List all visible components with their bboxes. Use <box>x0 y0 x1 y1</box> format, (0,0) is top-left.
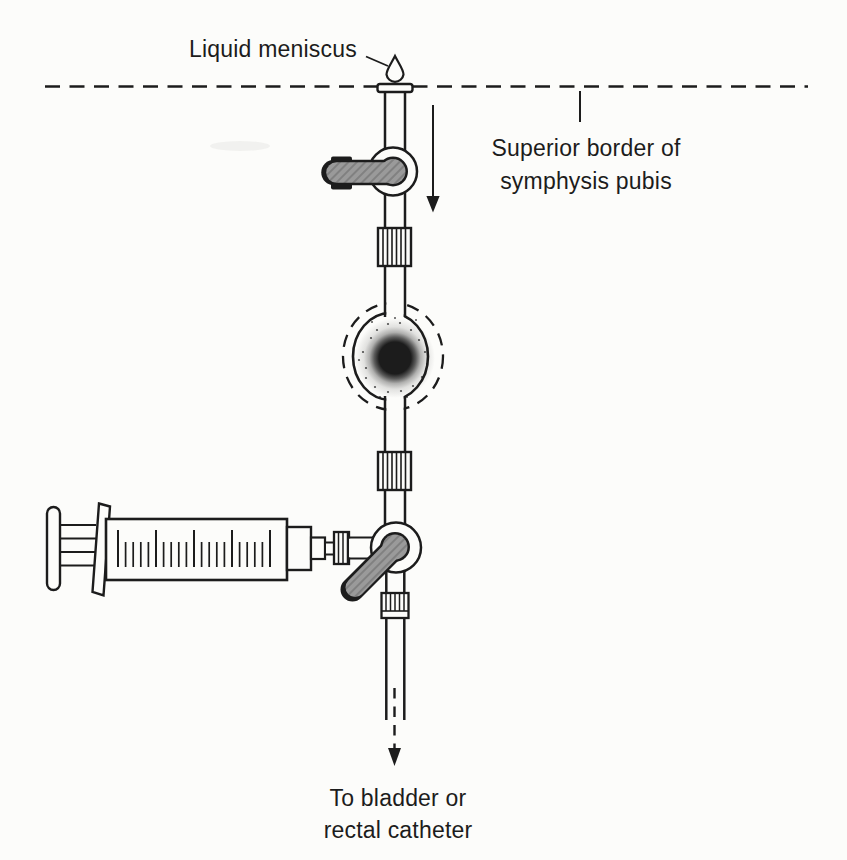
ribbed-connector-middle <box>378 452 411 490</box>
liquid-meniscus-label: Liquid meniscus <box>189 36 357 62</box>
catheter-label-line1: To bladder or <box>330 785 467 811</box>
downward-flow-arrow <box>426 105 439 213</box>
upper-stopcock <box>331 148 417 196</box>
syringe-luer-nut <box>334 532 349 564</box>
symphysis-pubis-label-line2: symphysis pubis <box>500 168 672 194</box>
tube-open-top-rim <box>378 84 413 92</box>
symphysis-pubis-label-line1: Superior border of <box>492 135 681 161</box>
liquid-meniscus-leader-line <box>366 57 388 67</box>
scan-smudge <box>210 141 270 151</box>
syringe-plunger-thumb-rest <box>47 507 60 590</box>
manometer-tube-upper <box>385 92 405 322</box>
ribbed-connector-lower <box>382 593 409 618</box>
syringe-plunger-shaft <box>60 525 96 566</box>
ribbed-connector-upper <box>378 228 411 266</box>
syringe <box>47 504 374 596</box>
upper-stopcock-handle <box>331 157 408 190</box>
liquid-meniscus-droplet-icon <box>387 56 404 82</box>
cystometry-manometer-diagram: Liquid meniscus Superior border of symph… <box>0 0 847 860</box>
syringe-nozzle <box>287 527 334 570</box>
catheter-label-line2: rectal catheter <box>324 817 473 843</box>
manometer-diagram-page: Liquid meniscus Superior border of symph… <box>0 0 847 860</box>
